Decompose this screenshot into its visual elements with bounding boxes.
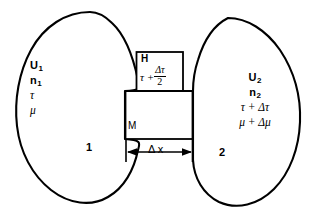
left-var-chempotential-symbol: μ	[30, 104, 36, 116]
right-var-energy: U2	[213, 70, 297, 85]
heat-temperature-denominator: 2	[154, 77, 165, 87]
right-var-temperature-symbol: τ + Δτ	[241, 101, 269, 113]
right-var-chempotential-symbol: μ + Δμ	[239, 116, 271, 128]
left-var-energy-subscript: 1	[38, 64, 43, 73]
right-reservoir-variables: U2 n2 τ + Δτ μ + Δμ	[213, 70, 297, 130]
heat-temperature-numerator: Δτ	[154, 65, 165, 75]
left-var-particles-subscript: 1	[37, 79, 42, 88]
right-var-energy-symbol: U	[249, 71, 257, 83]
diagram-canvas: U1 n1 τ μ 1 U2 n2 τ + Δτ μ + Δμ 2 H τ +Δ…	[0, 0, 319, 218]
right-var-temperature: τ + Δτ	[213, 100, 297, 115]
right-var-energy-subscript: 2	[257, 76, 262, 85]
membrane-box	[126, 91, 193, 139]
heat-temperature-fraction: Δτ2	[154, 65, 165, 87]
left-var-chempotential: μ	[30, 103, 43, 118]
left-var-energy: U1	[30, 58, 43, 73]
right-reservoir-index-label: 2	[219, 147, 225, 159]
left-var-particles: n1	[30, 73, 43, 88]
left-var-temperature: τ	[30, 88, 43, 103]
dimension-arrowhead-right	[182, 148, 192, 156]
left-reservoir-variables: U1 n1 τ μ	[30, 58, 43, 118]
left-reservoir-index-label: 1	[86, 142, 92, 154]
right-var-chempotential: μ + Δμ	[213, 115, 297, 130]
left-var-particles-symbol: n	[30, 74, 37, 86]
right-var-particles-symbol: n	[249, 86, 256, 98]
thickness-dimension-label: Δ x	[148, 144, 163, 156]
left-var-temperature-symbol: τ	[30, 89, 34, 101]
left-var-energy-symbol: U	[30, 59, 38, 71]
right-var-particles: n2	[213, 85, 297, 100]
heat-reservoir-temperature: τ +Δτ2	[140, 66, 166, 88]
membrane-label: M	[128, 121, 136, 132]
heat-reservoir-title: H	[141, 54, 148, 65]
heat-temperature-prefix: τ +	[140, 71, 154, 83]
right-var-particles-subscript: 2	[256, 91, 261, 100]
